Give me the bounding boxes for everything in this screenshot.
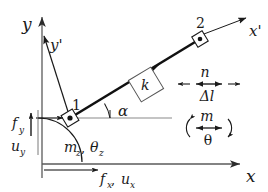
rotation-z-symbol: θ <box>90 139 99 155</box>
force-y-label: f y <box>11 115 25 135</box>
angle-alpha-label: α <box>118 102 128 120</box>
x-axis-label: x <box>246 166 256 186</box>
legend-axial <box>178 81 240 87</box>
axial-deformation-label: Δl <box>199 88 215 104</box>
node-1-dot <box>67 115 72 120</box>
bending-inner-arrow-right <box>215 125 222 130</box>
bending-inner-arrow-left <box>197 125 204 130</box>
y-prime-axis-label: y' <box>49 36 63 54</box>
x-prime-axis-label: x' <box>249 22 262 40</box>
node-2-label: 2 <box>196 15 205 31</box>
axial-inner-arrow-right <box>215 81 222 87</box>
y-axis-label: y <box>21 14 32 34</box>
axial-inner-arrow-left <box>197 81 204 87</box>
node-2-dot <box>198 37 203 42</box>
disp-y-label: u y <box>11 138 26 157</box>
diagram-canvas: y x y' x' 1 2 k α f y u y m z , θ z f x <box>0 0 268 192</box>
angle-alpha-arc <box>105 104 111 119</box>
node-1-label: 1 <box>72 97 81 113</box>
disp-y-symbol: u <box>11 138 20 154</box>
stiffness-label: k <box>141 77 149 93</box>
disp-x-subscript: x <box>130 180 135 190</box>
bending-arc-right <box>228 119 232 137</box>
fx-comma: , <box>111 172 115 187</box>
rotation-z-subscript: z <box>98 148 104 158</box>
figure-root: y x y' x' 1 2 k α f y u y m z , θ z f x <box>0 0 268 192</box>
bending-moment-label: m <box>200 108 213 124</box>
force-disp-x-label: f x , u x <box>99 171 135 190</box>
mz-comma: , <box>81 140 85 155</box>
alpha-arc-path <box>105 104 111 119</box>
disp-x-symbol: u <box>121 171 130 187</box>
bending-arc-left <box>186 119 190 137</box>
force-y-subscript: y <box>18 125 25 135</box>
bending-rotation-label: θ <box>204 132 212 148</box>
axial-force-label: n <box>200 64 209 80</box>
moment-rotation-z-label: m z , θ z <box>64 139 104 158</box>
disp-y-subscript: y <box>19 147 26 157</box>
dof-fy-uy-arrows <box>31 113 63 136</box>
